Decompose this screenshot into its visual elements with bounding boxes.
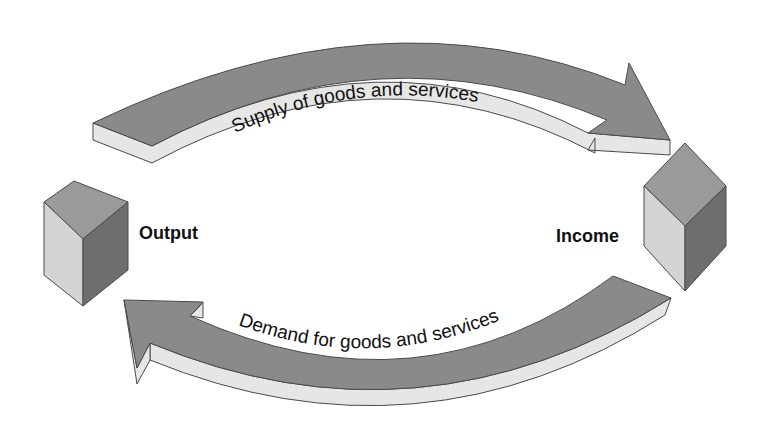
output-cube-icon [44, 181, 128, 306]
income-cube-icon [644, 143, 726, 291]
demand-arrow: Demand for goods and services [124, 276, 671, 406]
income-node-label: Income [556, 226, 619, 247]
output-node-label: Output [139, 223, 198, 244]
demand-flow-label: Demand for goods and services [237, 304, 502, 352]
supply-arrow: Supply of goods and services [93, 43, 670, 163]
circular-flow-diagram: Supply of goods and services Demand for … [0, 0, 766, 436]
